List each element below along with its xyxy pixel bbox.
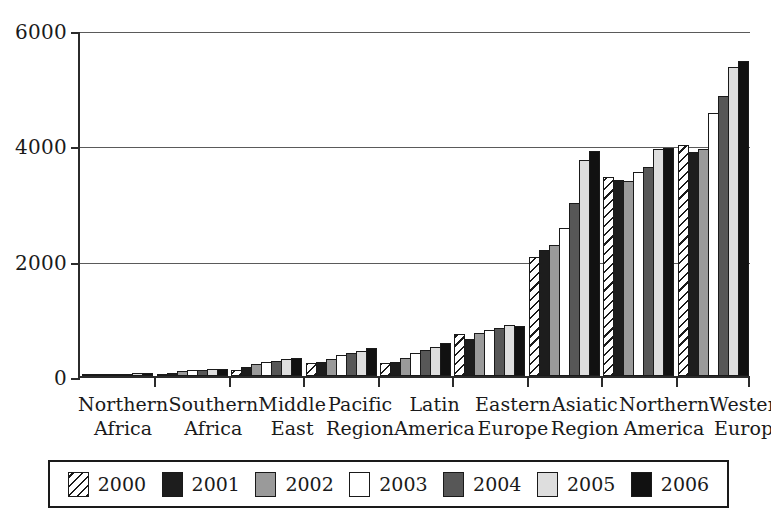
legend-label-2000: 2000 (98, 473, 146, 495)
bar-2006 (440, 343, 451, 376)
x-tick-mark-end (748, 376, 750, 387)
y-tick-mark-6000 (71, 32, 80, 34)
x-axis-label-line: Middle (258, 392, 326, 416)
bar-chart: 6000400020000 NorthernAfricaSouthernAfri… (0, 0, 771, 518)
bar-group-pacific-region (303, 32, 377, 376)
bar-group-southern-africa (154, 32, 228, 376)
legend-item-2004[interactable]: 2004 (443, 472, 521, 497)
legend-item-2006[interactable]: 2006 (631, 472, 709, 497)
bar-group-northern-america (601, 32, 675, 376)
x-tick-mark (154, 376, 156, 387)
x-axis-label-middle-east: MiddleEast (258, 392, 326, 440)
x-axis-label-western-europe: WesternEurope (709, 392, 771, 440)
x-axis-label-line: Europe (475, 416, 551, 440)
x-tick-mark (452, 376, 454, 387)
x-axis-label-line: Southern (168, 392, 258, 416)
bar-2006 (589, 151, 600, 376)
legend-item-2003[interactable]: 2003 (349, 472, 427, 497)
x-axis-label-line: Region (551, 416, 619, 440)
bars (82, 32, 152, 376)
bars (678, 32, 748, 376)
x-axis-label-southern-africa: SouthernAfrica (168, 392, 258, 440)
y-tick-mark-0 (71, 378, 80, 380)
x-axis-label-line: Asiatic (551, 392, 619, 416)
chart-legend: 2000200120022003200420052006 (48, 460, 729, 508)
x-axis-label-line: Europe (709, 416, 771, 440)
y-tick-mark-2000 (71, 263, 80, 265)
bars (231, 32, 301, 376)
legend-item-2000[interactable]: 2000 (68, 472, 146, 497)
x-tick-mark (378, 376, 380, 387)
x-axis-label-line: Latin (394, 392, 475, 416)
hatch-swatch-2000-icon (68, 472, 89, 497)
legend-label-2003: 2003 (379, 473, 427, 495)
solid-swatch-2002-icon (255, 472, 276, 497)
bars (380, 32, 450, 376)
x-axis-label-line: Northern (619, 392, 709, 416)
y-tick-label-0: 0 (54, 366, 67, 390)
bar-2006 (217, 369, 228, 376)
legend-item-2002[interactable]: 2002 (255, 472, 333, 497)
bar-groups (80, 32, 750, 376)
bar-2006 (366, 348, 377, 376)
x-axis-labels: NorthernAfricaSouthernAfricaMiddleEastPa… (78, 392, 750, 440)
bars (454, 32, 524, 376)
solid-swatch-2001-icon (162, 472, 183, 497)
x-axis-label-line: Pacific (326, 392, 394, 416)
x-axis-label-line: Northern (78, 392, 168, 416)
legend-item-2005[interactable]: 2005 (537, 472, 615, 497)
x-axis-label-eastern-europe: EasternEurope (475, 392, 551, 440)
bar-2006 (142, 373, 153, 376)
bars (306, 32, 376, 376)
plot-area: 6000400020000 (78, 32, 750, 378)
legend-item-2001[interactable]: 2001 (162, 472, 240, 497)
bar-2006 (291, 358, 302, 376)
solid-swatch-2004-icon (443, 472, 464, 497)
y-tick-mark-4000 (71, 147, 80, 149)
x-axis-label-line: Africa (168, 416, 258, 440)
x-tick-mark (676, 376, 678, 387)
x-axis-label-latin-america: LatinAmerica (394, 392, 475, 440)
x-axis-label-line: America (619, 416, 709, 440)
y-tick-label-2000: 2000 (15, 251, 67, 275)
solid-swatch-2005-icon (537, 472, 558, 497)
legend-label-2004: 2004 (473, 473, 521, 495)
bar-group-eastern-europe (452, 32, 526, 376)
bars (529, 32, 599, 376)
solid-swatch-2003-icon (349, 472, 370, 497)
legend-label-2006: 2006 (661, 473, 709, 495)
x-tick-mark (229, 376, 231, 387)
bar-group-middle-east (229, 32, 303, 376)
gridline-0 (80, 378, 750, 379)
x-axis-label-asiatic-region: AsiaticRegion (551, 392, 619, 440)
x-axis-label-pacific-region: PacificRegion (326, 392, 394, 440)
x-tick-mark (601, 376, 603, 387)
bars (603, 32, 673, 376)
x-tick-mark (527, 376, 529, 387)
bar-group-asiatic-region (527, 32, 601, 376)
bar-2006 (738, 61, 749, 376)
bar-group-northern-africa (80, 32, 154, 376)
bar-group-latin-america (378, 32, 452, 376)
x-tick-mark (303, 376, 305, 387)
bar-2006 (663, 148, 674, 376)
x-axis-label-line: Africa (78, 416, 168, 440)
x-axis-label-line: Eastern (475, 392, 551, 416)
y-tick-label-6000: 6000 (15, 20, 67, 44)
x-axis-label-line: Western (709, 392, 771, 416)
bar-2006 (514, 326, 525, 376)
bar-group-western-europe (676, 32, 750, 376)
legend-label-2005: 2005 (567, 473, 615, 495)
x-axis-label-line: Region (326, 416, 394, 440)
bars (157, 32, 227, 376)
x-axis-label-line: America (394, 416, 475, 440)
y-tick-label-4000: 4000 (15, 135, 67, 159)
x-axis-label-northern-africa: NorthernAfrica (78, 392, 168, 440)
legend-label-2001: 2001 (192, 473, 240, 495)
x-axis-label-northern-america: NorthernAmerica (619, 392, 709, 440)
solid-swatch-2006-icon (631, 472, 652, 497)
x-axis-label-line: East (258, 416, 326, 440)
legend-label-2002: 2002 (285, 473, 333, 495)
